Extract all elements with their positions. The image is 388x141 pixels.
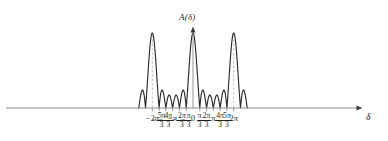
y-axis-arrowhead <box>191 27 196 33</box>
x-tick-label-t2pi-3: 2π3 <box>202 112 212 129</box>
interference-figure: −2π−5π3−4π3−π−2π3−π30π32π3π4π35π32π A(δ)… <box>0 0 388 141</box>
x-axis-label: δ <box>366 112 370 122</box>
x-tick-label-t0: 0 <box>191 115 195 123</box>
y-axis-label: A(δ) <box>179 12 196 22</box>
axis-group <box>6 27 362 112</box>
x-tick-label-t2pi: 2π <box>230 115 238 123</box>
y-axis-label-arg: δ <box>188 12 192 22</box>
y-axis-label-fn: A <box>179 12 185 22</box>
x-axis-arrowhead <box>357 105 363 110</box>
